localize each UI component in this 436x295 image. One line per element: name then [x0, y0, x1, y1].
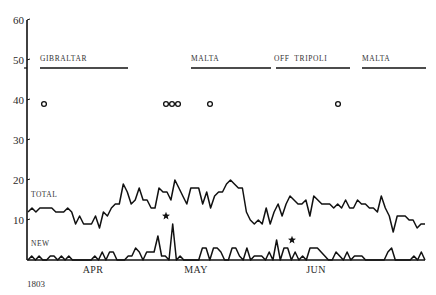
y-tick-label: 50: [13, 54, 25, 66]
series-label-new: NEW: [31, 239, 50, 248]
y-tick-label: 30: [13, 134, 25, 146]
location-label: MALTA: [362, 54, 390, 63]
x-axis: APRMAYJUN: [27, 260, 425, 275]
month-label: MAY: [184, 264, 208, 275]
y-axis: 102030405060: [13, 14, 30, 260]
y-tick-label: 40: [13, 94, 25, 106]
circle-markers: [42, 102, 341, 107]
month-label: JUN: [306, 264, 326, 275]
series-label-total: TOTAL: [31, 190, 57, 199]
series-line-new: [28, 224, 425, 260]
y-tick: [27, 19, 30, 20]
location-label: GIBRALTAR: [40, 54, 87, 63]
chart-canvas: 102030405060 APRMAYJUN GIBRALTARMALTAOFF…: [0, 0, 436, 295]
location-periods: GIBRALTARMALTAOFF TRIPOLIMALTA: [40, 54, 426, 68]
y-tick-label: 10: [13, 214, 25, 226]
star-icon: [288, 236, 296, 244]
location-label: MALTA: [191, 54, 219, 63]
circle-icon: [176, 102, 181, 107]
star-icon: [162, 212, 170, 220]
circle-icon: [336, 102, 341, 107]
circle-icon: [164, 102, 169, 107]
y-tick-label: 20: [13, 174, 25, 186]
month-label: APR: [83, 264, 104, 275]
circle-icon: [42, 102, 47, 107]
series-lines: TOTALNEW: [28, 180, 425, 260]
series-line-total: [28, 180, 425, 232]
star-markers: [162, 212, 296, 244]
year-label: 1803: [27, 279, 46, 289]
circle-icon: [170, 102, 175, 107]
location-label: OFF TRIPOLI: [274, 54, 327, 63]
y-tick-label: 60: [13, 14, 25, 26]
circle-icon: [208, 102, 213, 107]
